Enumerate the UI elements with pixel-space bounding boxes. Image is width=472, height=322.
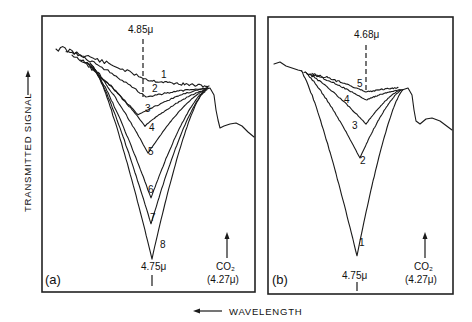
panel-b-co2-arrowhead-icon [423, 232, 428, 239]
panel-a-trace-3 [72, 55, 208, 115]
panel-a-curve-label-1: 1 [161, 69, 167, 80]
panel-a-curve-label-7: 7 [150, 212, 156, 223]
figure: TRANSMITTED SIGNAL WAVELENGTH 12345678 4… [0, 0, 472, 322]
panel-b-curve-label-1: 1 [359, 237, 365, 248]
panel-b: 12345 4.68μ 4.75μ CO₂ (4.27μ) (b) [268, 17, 453, 294]
panel-a-baseline-tail [204, 88, 254, 137]
panel-b-curve-label-3: 3 [352, 120, 358, 131]
panel-a-bottom-marker-label: 4.75μ [141, 261, 166, 272]
panel-a-co2-arrowhead-icon [225, 232, 230, 239]
panel-b-baseline-head [274, 62, 302, 71]
panel-a-trace-1 [56, 47, 209, 88]
panel-b-curve-labels: 12345 [344, 78, 366, 248]
x-axis-label-group: WAVELENGTH [193, 306, 302, 317]
panel-b-curve-label-4: 4 [344, 94, 350, 105]
y-axis-label-group: TRANSMITTED SIGNAL [22, 70, 33, 212]
panel-b-co2-label: CO₂ [414, 261, 433, 272]
y-axis-arrowhead-icon [26, 70, 31, 77]
panel-b-co2-wavelength: (4.27μ) [405, 274, 437, 285]
panel-b-curve-label-2: 2 [360, 155, 366, 166]
panel-b-baseline-tail [402, 88, 452, 130]
panel-b-trace-3 [306, 73, 401, 125]
panel-a-tag: (a) [45, 272, 61, 287]
panel-b-trace-5 [312, 73, 398, 92]
panel-a-curve-label-3: 3 [145, 103, 151, 114]
panel-a-curve-label-2: 2 [152, 83, 158, 94]
panel-b-trace-4 [310, 75, 400, 100]
panel-a-dashed-marker-label: 4.85μ [128, 24, 153, 35]
panel-b-tag: (b) [272, 272, 288, 287]
panel-a-co2-label: CO₂ [216, 261, 235, 272]
panel-a-co2-wavelength: (4.27μ) [207, 274, 239, 285]
panel-a: 12345678 4.85μ 4.75μ CO₂ (4.27μ) (a) [42, 16, 255, 292]
panel-a-curve-label-4: 4 [149, 122, 155, 133]
panel-a-curve-label-6: 6 [148, 184, 154, 195]
y-axis-label: TRANSMITTED SIGNAL [22, 93, 33, 212]
panel-b-dashed-marker-label: 4.68μ [354, 29, 379, 40]
x-axis-label: WAVELENGTH [229, 306, 302, 317]
panel-a-curve-label-8: 8 [160, 239, 166, 250]
panel-a-traces [56, 47, 254, 260]
panel-b-bottom-marker-label: 4.75μ [342, 270, 367, 281]
panel-b-curve-label-5: 5 [357, 78, 363, 89]
x-axis-arrowhead-icon [193, 309, 200, 314]
panel-a-curve-label-5: 5 [148, 146, 154, 157]
